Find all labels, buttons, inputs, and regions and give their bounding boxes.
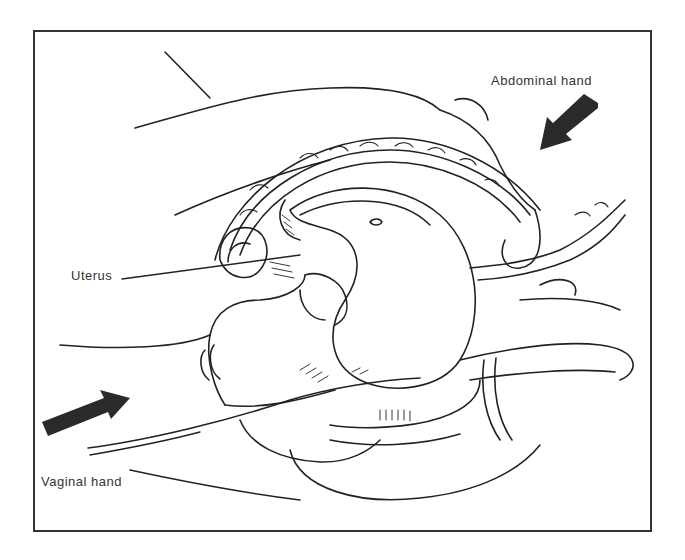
arrow-icon <box>42 94 598 436</box>
uterus-label: Uterus <box>71 268 112 283</box>
abdominal-hand-label: Abdominal hand <box>491 73 592 88</box>
vaginal-hand-label: Vaginal hand <box>41 474 122 489</box>
